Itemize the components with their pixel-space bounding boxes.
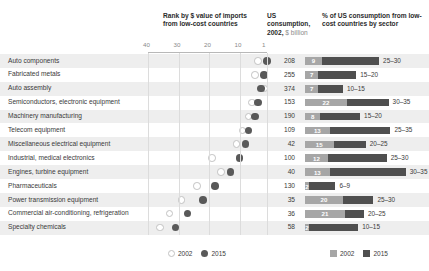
bar-value-2002: 13 (305, 169, 330, 176)
row-sector-label: Industrial, medical electronics (8, 154, 95, 161)
row-consumption-value: 35 (265, 196, 295, 203)
open-circle-icon (168, 250, 175, 257)
dot-2015 (254, 99, 262, 107)
row-consumption-value: 208 (265, 57, 295, 64)
rank-axis-line (148, 52, 267, 53)
row-consumption-value: 100 (265, 154, 295, 161)
chart-rows: Auto components208925–30Fabricated metal… (0, 54, 429, 235)
bar-segment-2002: 7 (305, 71, 318, 79)
dot-2002 (254, 57, 262, 65)
bar-segment-2015 (347, 99, 389, 107)
axis-tick-20: 20 (204, 41, 211, 48)
row-percent-range: 20–25 (368, 210, 386, 217)
row-sector-label: Specialty chemicals (8, 223, 66, 230)
axis-tick-40: 40 (143, 41, 150, 48)
bar-segment-2002: 15 (305, 141, 334, 149)
bar-segment-2002: 13 (305, 168, 330, 176)
row-consumption-value: 40 (265, 168, 295, 175)
bar-value-2002: 15 (305, 141, 334, 148)
row-sector-label: Semiconductors, electronic equipment (8, 98, 120, 105)
chart-row: Industrial, medical electronics1001225–3… (0, 151, 429, 165)
row-sector-label: Auto assembly (8, 84, 51, 91)
dot-2002 (193, 182, 201, 190)
row-consumption-value: 36 (265, 210, 295, 217)
legend-item-bar-2002: 2002 (330, 250, 354, 257)
row-percent-range: 30–35 (410, 168, 428, 175)
bar-segment-2015 (320, 113, 360, 121)
chart-row: Auto components208925–30 (0, 54, 429, 68)
row-sector-label: Engines, turbine equipment (8, 168, 88, 175)
row-consumption-value: 374 (265, 85, 295, 92)
chart-row: Power transmission equipment352025–30 (0, 193, 429, 207)
legend-item-dot-2015: 2015 (201, 250, 225, 257)
row-percent-range: 25–30 (391, 154, 409, 161)
chart-row: Semiconductors, electronic equipment1532… (0, 96, 429, 110)
bar-segment-2002: 8 (305, 113, 320, 121)
chart-row: Specialty chemicals58210–15 (0, 221, 429, 235)
row-percent-range: 6–9 (339, 182, 350, 189)
bar-segment-2002: 20 (305, 196, 343, 204)
dot-2015 (245, 127, 253, 135)
chart-row: Machinery manufacturing190815–20 (0, 110, 429, 124)
rank-axis-ticks: 403020101 (148, 41, 267, 51)
row-sector-label: Fabricated metals (8, 70, 60, 77)
row-stacked-bar: 2 (305, 224, 358, 232)
row-consumption-value: 190 (265, 112, 295, 119)
row-stacked-bar: 7 (305, 85, 343, 93)
row-stacked-bar: 22 (305, 99, 389, 107)
row-consumption-value: 130 (265, 182, 295, 189)
row-sector-label: Auto components (8, 57, 59, 64)
row-percent-range: 30–35 (393, 98, 411, 105)
bar-value-2002: 22 (305, 99, 347, 106)
dot-2015 (257, 85, 265, 93)
consumption-header-line1: US consumption, (267, 12, 310, 27)
row-sector-label: Pharmaceuticals (8, 182, 57, 189)
chart-row: Pharmaceuticals13026–9 (0, 179, 429, 193)
row-sector-label: Machinery manufacturing (8, 112, 82, 119)
axis-tick-1: 1 (262, 41, 265, 48)
column-header-consumption: US consumption, 2002, $ billion (267, 12, 319, 37)
chart-row: Commercial air-conditioning, refrigerati… (0, 207, 429, 221)
row-percent-range: 10–15 (362, 223, 380, 230)
chart-root: Rank by $ value of imports from low-cost… (0, 0, 429, 271)
row-percent-range: 15–20 (360, 71, 378, 78)
bar-segment-2015 (334, 141, 366, 149)
bar-segment-2002: 22 (305, 99, 347, 107)
row-consumption-value: 42 (265, 140, 295, 147)
row-stacked-bar: 13 (305, 127, 391, 135)
row-consumption-value: 109 (265, 126, 295, 133)
dot-2002 (251, 71, 259, 79)
bar-segment-2002: 7 (305, 85, 318, 93)
bar-segment-2015 (318, 85, 343, 93)
row-stacked-bar: 13 (305, 168, 406, 176)
legend-bars: 20022015 (330, 250, 397, 257)
legend-label: 2002 (178, 250, 192, 257)
gridline-10 (240, 53, 241, 235)
legend-item-bar-2015: 2015 (363, 250, 387, 257)
legend-item-dot-2002: 2002 (168, 250, 192, 257)
row-sector-label: Miscellaneous electrical equipment (8, 140, 110, 147)
bar-segment-2015 (330, 168, 406, 176)
consumption-header-year: 2002, (267, 29, 284, 36)
dot-2002 (217, 168, 225, 176)
bar-value-2002: 13 (305, 127, 330, 134)
bar-segment-2015 (309, 224, 358, 232)
row-percent-range: 10–15 (347, 85, 365, 92)
gridline-20 (209, 53, 210, 235)
row-sector-label: Commercial air-conditioning, refrigerati… (8, 209, 129, 216)
legend-label: 2002 (340, 250, 354, 257)
row-consumption-value: 58 (265, 223, 295, 230)
dot-2002 (156, 224, 164, 232)
row-stacked-bar: 2 (305, 182, 335, 190)
row-consumption-value: 255 (265, 71, 295, 78)
chart-row: Auto assembly374710–15 (0, 82, 429, 96)
bar-segment-2015 (343, 196, 373, 204)
bar-value-2002: 9 (305, 57, 322, 64)
bar-segment-2002: 21 (305, 210, 345, 218)
row-percent-range: 15–20 (364, 112, 382, 119)
consumption-header-unit: $ billion (285, 29, 307, 36)
legend-dots: 20022015 (168, 250, 235, 257)
row-percent-range: 25–30 (377, 196, 395, 203)
dot-2015 (211, 182, 219, 190)
bar-value-2002: 7 (305, 71, 318, 78)
